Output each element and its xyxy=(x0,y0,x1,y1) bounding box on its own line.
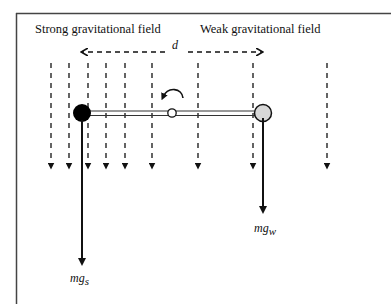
force-label-strong: mgs xyxy=(70,271,89,287)
distance-arrow: d xyxy=(82,38,262,52)
field-lines xyxy=(51,63,327,166)
distance-label: d xyxy=(172,38,179,52)
rotation-arrow-icon xyxy=(163,90,183,98)
pivot xyxy=(168,109,176,117)
gravity-torque-diagram: Strong gravitational field Weak gravitat… xyxy=(0,0,391,304)
strong-field-label: Strong gravitational field xyxy=(35,22,161,36)
mass-strong-field xyxy=(73,104,91,122)
force-label-weak: mgw xyxy=(254,221,277,237)
weak-field-label: Weak gravitational field xyxy=(200,22,321,36)
